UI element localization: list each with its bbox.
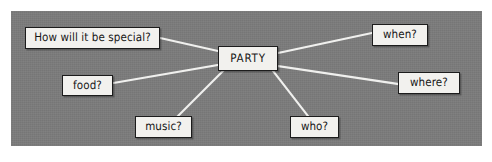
node-food-label: food?: [73, 80, 102, 92]
mind-map-figure: PARTY How will it be special? food? musi…: [0, 0, 492, 162]
node-where[interactable]: where?: [398, 72, 460, 94]
connector-party-music: [178, 71, 223, 116]
mind-map-canvas: PARTY How will it be special? food? musi…: [11, 11, 482, 146]
node-party[interactable]: PARTY: [218, 46, 278, 71]
node-when[interactable]: when?: [372, 24, 428, 46]
connector-party-special: [160, 38, 218, 51]
node-when-label: when?: [383, 29, 417, 41]
node-how-will-it-be-special-label: How will it be special?: [34, 32, 151, 44]
connector-party-food: [113, 65, 218, 83]
node-food[interactable]: food?: [62, 75, 113, 96]
node-where-label: where?: [410, 77, 448, 89]
node-music[interactable]: music?: [135, 116, 192, 138]
node-who-label: who?: [301, 121, 328, 133]
connector-party-where: [278, 66, 398, 84]
node-music-label: music?: [145, 121, 182, 133]
connector-party-who: [273, 71, 308, 116]
node-how-will-it-be-special[interactable]: How will it be special?: [25, 27, 160, 49]
connector-party-when: [278, 33, 372, 53]
node-party-label: PARTY: [230, 53, 266, 65]
node-who[interactable]: who?: [290, 116, 339, 138]
